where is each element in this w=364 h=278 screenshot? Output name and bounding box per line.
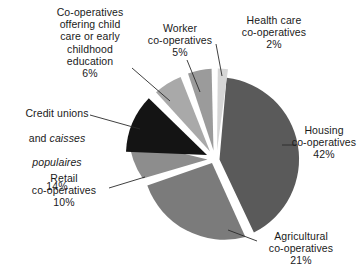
credit-label-and: and xyxy=(29,132,50,144)
pie-label-credit-unions: Credit unions and caisses populaires 14% xyxy=(2,95,112,205)
pie-label-childcare: Co-operatives offering child care or ear… xyxy=(34,6,146,79)
pie-label-worker: Worker co-operatives 5% xyxy=(135,22,225,59)
credit-label-line-1: Credit unions xyxy=(2,107,112,119)
credit-label-populaires: populaires xyxy=(2,156,112,168)
credit-label-line-2: and caisses xyxy=(2,132,112,144)
pie-label-housing: Housing co-operatives 42% xyxy=(284,124,364,161)
pie-label-health-care: Health care co-operatives 2% xyxy=(222,14,326,51)
credit-label-value: 14% xyxy=(2,180,112,192)
pie-chart: Co-operatives offering child care or ear… xyxy=(0,0,364,278)
pie-label-agricultural: Agricultural co-operatives 21% xyxy=(245,230,357,267)
pie-slices xyxy=(126,69,299,240)
credit-label-caisses: caisses xyxy=(50,132,86,144)
